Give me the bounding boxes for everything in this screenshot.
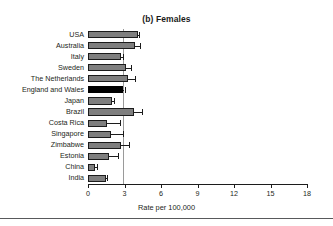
x-tick-15 [271,184,272,188]
error-cap-costa-rica [120,120,121,126]
error-bar-the-netherlands [128,79,135,80]
x-tick-label-9: 9 [188,189,208,198]
y-axis-label-italy: Italy [71,53,84,61]
error-bar-estonia [109,156,119,157]
error-cap-singapore [123,131,124,137]
x-tick-label-0: 0 [78,189,98,198]
y-axis-label-usa: USA [69,31,84,39]
x-tick-3 [125,184,126,188]
error-bar-singapore [111,134,123,135]
bar-usa [88,31,138,38]
bar-japan [88,97,112,104]
bar-sweden [88,64,126,71]
y-axis-label-the-netherlands: The Netherlands [31,75,84,83]
y-axis-label-brazil: Brazil [66,108,84,116]
bar-zimbabwe [88,142,121,149]
y-axis-label-india: India [68,174,84,182]
y-axis-label-australia: Australia [56,42,84,50]
error-cap-usa [139,32,140,38]
bar-the-netherlands [88,75,128,82]
y-axis-label-japan: Japan [64,97,84,105]
error-bar-brazil [134,112,141,113]
error-cap-brazil [142,109,143,115]
error-bar-zimbabwe [121,145,130,146]
bar-australia [88,42,135,49]
bar-england-and-wales [88,86,123,93]
plot-area [88,29,307,184]
bar-singapore [88,131,111,138]
x-tick-label-3: 3 [115,189,135,198]
x-tick-label-12: 12 [224,189,244,198]
bar-estonia [88,153,109,160]
y-axis-label-singapore: Singapore [51,130,84,138]
x-tick-12 [234,184,235,188]
y-axis-label-china: China [65,163,84,171]
error-bar-costa-rica [107,123,119,124]
error-cap-australia [140,43,141,49]
error-cap-the-netherlands [135,76,136,82]
x-tick-6 [161,184,162,188]
reference-line [123,29,124,184]
bar-india [88,175,106,182]
chart-figure: (b) Females USAAustraliaItalySwedenThe N… [0,0,333,226]
x-tick-9 [198,184,199,188]
y-axis-label-england-and-wales: England and Wales [22,86,84,94]
bar-costa-rica [88,120,107,127]
y-axis-label-costa-rica: Costa Rica [49,119,84,127]
error-cap-japan [114,98,115,104]
bar-china [88,164,95,171]
error-cap-zimbabwe [129,142,130,148]
y-axis-label-estonia: Estonia [60,152,84,160]
y-axis-category-labels: USAAustraliaItalySwedenThe NetherlandsEn… [6,29,86,184]
bar-italy [88,53,121,60]
bar-brazil [88,108,134,115]
y-axis-label-sweden: Sweden [58,64,84,72]
error-cap-sweden [131,65,132,71]
bottom-rule [0,218,333,219]
x-tick-18 [307,184,308,188]
x-tick-label-18: 18 [297,189,317,198]
y-axis-label-zimbabwe: Zimbabwe [51,141,84,149]
error-cap-china [97,164,98,170]
x-axis-title: Rate per 100,000 [0,203,333,212]
x-tick-label-6: 6 [151,189,171,198]
x-tick-label-15: 15 [261,189,281,198]
x-tick-0 [88,184,89,188]
chart-title: (b) Females [0,14,333,24]
error-cap-england-and-wales [125,87,126,93]
error-cap-estonia [118,153,119,159]
error-cap-italy [123,54,124,60]
error-cap-india [107,175,108,181]
